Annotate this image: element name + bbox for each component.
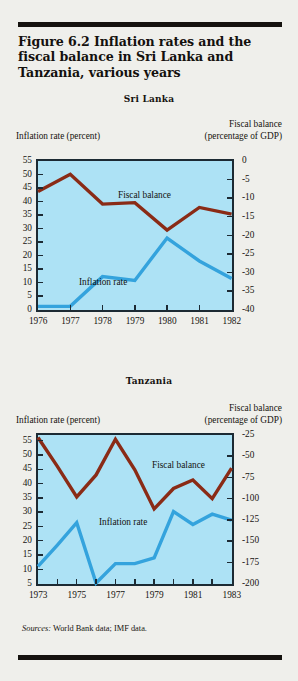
series-annotation-inflation-rate: Inflation rate — [99, 517, 147, 527]
y2-axis-label: -25 — [242, 248, 254, 258]
y2-axis-label: -200 — [242, 578, 259, 588]
y2-tick — [227, 197, 232, 199]
series-annotation-fiscal-balance: Fiscal balance — [118, 190, 171, 200]
y2-tick — [227, 455, 232, 457]
y2-axis-label: -30 — [242, 267, 254, 277]
chart-2-lines — [38, 435, 232, 584]
y-axis-label: 55 — [8, 435, 32, 445]
y-tick — [38, 214, 43, 216]
y2-axis-label: -40 — [242, 304, 254, 314]
chart-1-right-axis-caption-line2: (percentage of GDP) — [205, 131, 282, 143]
y2-tick — [227, 519, 232, 521]
y2-tick — [227, 216, 232, 218]
y-axis-label: 40 — [8, 196, 32, 206]
y-axis-label: 30 — [8, 223, 32, 233]
y-tick — [38, 187, 43, 189]
y-axis-label: 50 — [8, 449, 32, 459]
figure-page: Figure 6.2 Inflation rates and the fisca… — [0, 0, 298, 681]
y-axis-label: 55 — [8, 155, 32, 165]
y2-axis-label: -15 — [242, 211, 254, 221]
series-line-fiscal-balance — [38, 174, 232, 230]
y2-axis-label: -125 — [242, 514, 259, 524]
x-tick — [70, 305, 72, 310]
x-tick — [95, 579, 97, 584]
y2-tick — [227, 540, 232, 542]
y2-axis-label: -175 — [242, 557, 259, 567]
y-axis-label: 45 — [8, 182, 32, 192]
y2-axis-label: -20 — [242, 230, 254, 240]
chart-1-plot-area — [36, 159, 234, 312]
y2-tick — [227, 290, 232, 292]
y-tick — [38, 268, 43, 270]
chart-2-right-axis-caption-line2: (percentage of GDP) — [205, 415, 282, 427]
y2-tick — [227, 235, 232, 237]
y-axis-label: 10 — [8, 277, 32, 287]
y-axis-label: 5 — [8, 290, 32, 300]
y-axis-label: 20 — [8, 535, 32, 545]
y-axis-label: 25 — [8, 236, 32, 246]
top-rule — [18, 22, 282, 27]
x-axis-label: 1973 — [16, 590, 60, 600]
sources-label: Sources: — [22, 624, 51, 633]
x-axis-label: 1983 — [210, 590, 254, 600]
y-axis-label: 5 — [8, 578, 32, 588]
x-tick — [57, 579, 59, 584]
y-axis-label: 30 — [8, 506, 32, 516]
sources-text: World Bank data; IMF data. — [53, 624, 147, 633]
series-annotation-fiscal-balance: Fiscal balance — [152, 460, 205, 470]
figure-title: Figure 6.2 Inflation rates and the fisca… — [18, 34, 280, 80]
y2-axis-label: -25 — [242, 429, 254, 439]
x-axis-label: 1979 — [132, 590, 176, 600]
series-line-inflation-rate — [38, 238, 232, 306]
y-tick — [38, 174, 43, 176]
series-annotation-inflation-rate: Inflation rate — [79, 277, 127, 287]
y-tick — [38, 295, 43, 297]
y-tick — [38, 526, 43, 528]
chart-2-right-axis-caption-line1: Fiscal balance — [205, 403, 282, 415]
x-tick — [173, 579, 175, 584]
y2-tick — [227, 562, 232, 564]
x-tick — [153, 579, 155, 584]
x-tick — [199, 305, 201, 310]
y2-axis-label: -100 — [242, 493, 259, 503]
sources-note: Sources: World Bank data; IMF data. — [22, 624, 147, 633]
chart-1-right-axis-caption: Fiscal balance (percentage of GDP) — [205, 119, 282, 142]
y-tick — [38, 569, 43, 571]
x-tick — [134, 305, 136, 310]
x-tick — [211, 579, 213, 584]
y-tick — [38, 540, 43, 542]
y2-tick — [227, 253, 232, 255]
x-axis-label: 1975 — [55, 590, 99, 600]
y-tick — [38, 255, 43, 257]
y-axis-label: 35 — [8, 209, 32, 219]
y2-axis-label: 0 — [242, 155, 247, 165]
chart-2-title: Tanzania — [0, 376, 298, 386]
y2-axis-label: -5 — [242, 174, 250, 184]
series-line-fiscal-balance — [38, 438, 232, 509]
y-axis-label: 45 — [8, 463, 32, 473]
y-axis-label: 20 — [8, 250, 32, 260]
bottom-rule — [18, 655, 282, 660]
x-axis-label: 1981 — [171, 590, 215, 600]
y-tick — [38, 511, 43, 513]
chart-1-lines — [38, 161, 232, 310]
y-axis-label: 15 — [8, 549, 32, 559]
y-tick — [38, 228, 43, 230]
y2-tick — [227, 179, 232, 181]
y2-axis-label: -10 — [242, 192, 254, 202]
chart-1-right-axis-caption-line1: Fiscal balance — [205, 119, 282, 131]
y-tick — [38, 201, 43, 203]
y-axis-label: 50 — [8, 169, 32, 179]
y2-tick — [227, 498, 232, 500]
y-tick — [38, 469, 43, 471]
y-axis-label: 40 — [8, 478, 32, 488]
x-tick — [166, 305, 168, 310]
y-tick — [38, 282, 43, 284]
chart-2-right-axis-caption: Fiscal balance (percentage of GDP) — [205, 403, 282, 426]
y-axis-label: 0 — [8, 304, 32, 314]
chart-1-left-axis-caption: Inflation rate (percent) — [16, 131, 100, 143]
x-tick — [115, 579, 117, 584]
y-axis-label: 10 — [8, 564, 32, 574]
y-tick — [38, 497, 43, 499]
y-tick — [38, 241, 43, 243]
